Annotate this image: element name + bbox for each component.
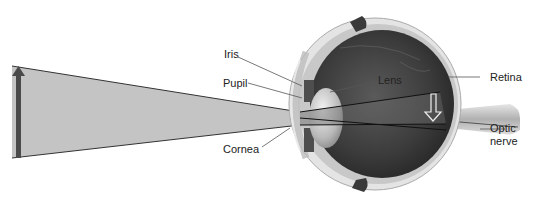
label-nerve: nerve [490, 135, 518, 147]
label-lens: Lens [378, 74, 402, 86]
label-cornea: Cornea [223, 143, 259, 155]
label-retina: Retina [490, 71, 522, 83]
eye-diagram: Iris Pupil Cornea Lens Retina Optic nerv… [0, 0, 534, 206]
eye-illustration [0, 0, 534, 206]
label-iris: Iris [224, 48, 239, 60]
label-pupil: Pupil [223, 77, 247, 89]
label-optic: Optic [490, 122, 516, 134]
